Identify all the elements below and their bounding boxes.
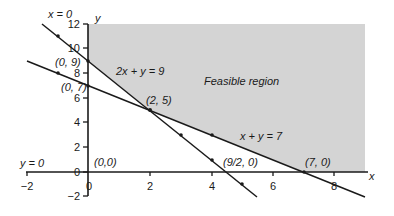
y-tick-neg2: −2 [67,190,80,202]
y-tick-6: 6 [74,92,80,104]
y-eq-0-label: y = 0 [19,157,45,169]
x-axis-name: x [368,170,375,182]
point-0-0-label: (0,0) [94,156,117,168]
x-tick-6: 6 [270,180,276,192]
y-tick-8: 8 [74,67,80,79]
feasible-region [88,24,365,172]
point-2-5-label: (2, 5) [146,94,172,106]
line2-label: x + y = 7 [239,130,283,142]
y-tick-0: 0 [74,166,80,178]
x-tick-8: 8 [331,180,337,192]
x-tick-0: 0 [86,180,92,192]
point-7-0-label: (7, 0) [305,156,331,168]
x-tick-neg2: −2 [21,180,34,192]
feasible-region-chart: x = 0 y x y = 0 2x + y = 9 x + y = 7 Fea… [0,0,394,216]
y-tick-10: 10 [68,42,80,54]
y-tick-12: 12 [68,18,80,30]
y-axis-name: y [94,12,102,24]
y-tick-4: 4 [74,116,80,128]
x-tick-4: 4 [209,180,215,192]
point-9-2-0-label: (9/2, 0) [223,156,258,168]
feasible-region-label: Feasible region [204,75,279,87]
line1-label: 2x + y = 9 [115,65,164,77]
x-tick-2: 2 [147,180,153,192]
y-tick-2: 2 [74,141,80,153]
